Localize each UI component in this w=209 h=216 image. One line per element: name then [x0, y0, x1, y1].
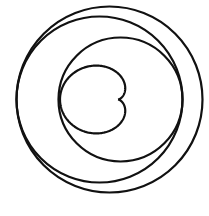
- cardioid-curve: [60, 66, 125, 134]
- outer-circle: [17, 7, 203, 193]
- concentric-curves-figure: [0, 0, 209, 216]
- diagram-canvas: [0, 0, 209, 216]
